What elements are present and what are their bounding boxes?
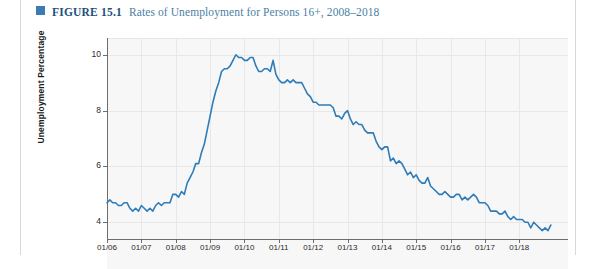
figure-title: Rates of Unemployment for Persons 16+, 2… xyxy=(129,6,380,18)
unemployment-line xyxy=(107,55,551,231)
figure-caption: FIGURE 15.1 Rates of Unemployment for Pe… xyxy=(36,6,379,18)
page-rule-right xyxy=(575,0,576,255)
figure-number: FIGURE 15.1 xyxy=(52,6,122,18)
series-layer xyxy=(21,34,575,255)
chart-container: Unemployment Percentage 46810 01/0601/07… xyxy=(21,34,575,255)
